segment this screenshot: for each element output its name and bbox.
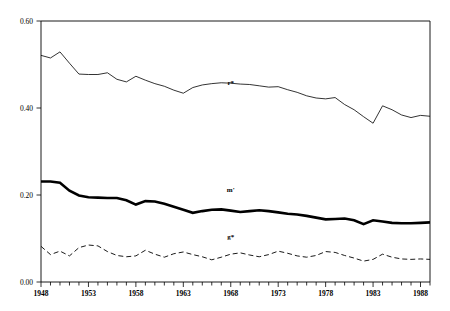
line-chart: 194819531958196319681973197819831988 0.0… bbox=[0, 0, 450, 311]
x-tick-label: 1953 bbox=[81, 289, 96, 298]
y-tick-label: 0.40 bbox=[20, 104, 33, 113]
x-tick-label: 1978 bbox=[318, 289, 333, 298]
chart-container: 194819531958196319681973197819831988 0.0… bbox=[0, 0, 450, 311]
x-tick-label: 1948 bbox=[34, 289, 49, 298]
x-axis-tick-labels: 194819531958196319681973197819831988 bbox=[34, 289, 429, 298]
x-tick-label: 1983 bbox=[366, 289, 381, 298]
series-label-1: m' bbox=[227, 186, 235, 194]
x-axis-ticks bbox=[41, 282, 430, 287]
series-label-0: r* bbox=[227, 79, 234, 87]
y-tick-label: 0.60 bbox=[20, 17, 33, 26]
series-annotations: r*m'g* bbox=[227, 79, 235, 241]
series-label-2: g* bbox=[227, 233, 235, 241]
series-line-0 bbox=[41, 52, 430, 123]
y-axis-ticks bbox=[37, 21, 42, 282]
x-tick-label: 1963 bbox=[176, 289, 191, 298]
series-lines bbox=[41, 52, 430, 261]
y-axis-tick-labels: 0.000.200.400.60 bbox=[20, 17, 33, 287]
x-tick-label: 1958 bbox=[128, 289, 143, 298]
y-tick-label: 0.20 bbox=[20, 191, 33, 200]
plot-frame bbox=[41, 21, 430, 282]
series-line-2 bbox=[41, 245, 430, 261]
x-tick-label: 1968 bbox=[223, 289, 238, 298]
x-tick-label: 1973 bbox=[271, 289, 286, 298]
x-tick-label: 1988 bbox=[413, 289, 428, 298]
y-tick-label: 0.00 bbox=[20, 278, 33, 287]
series-line-1 bbox=[41, 182, 430, 225]
